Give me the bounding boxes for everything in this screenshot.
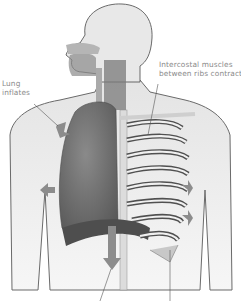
lung-label-line1: Lung [2, 79, 30, 88]
anatomy-illustration [0, 0, 241, 301]
lung-label: Lung inflates [2, 79, 30, 97]
intercostal-label-line2: between ribs contract [159, 69, 241, 78]
intercostal-label: Intercostal muscles between ribs contrac… [159, 60, 241, 78]
lung-label-line2: inflates [2, 88, 30, 97]
intercostal-label-line1: Intercostal muscles [159, 60, 241, 69]
